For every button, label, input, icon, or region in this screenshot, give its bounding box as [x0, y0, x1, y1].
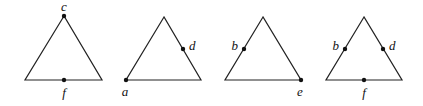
triangle-3: b e [225, 17, 303, 99]
label-b: b [232, 38, 239, 53]
point-f [62, 78, 66, 82]
label-a: a [122, 84, 129, 99]
label-e: e [297, 84, 303, 99]
label-d: d [189, 38, 196, 53]
label-f: f [362, 85, 368, 100]
triangle-1: c f [25, 0, 102, 100]
point-d [181, 47, 185, 51]
triangle-4: b d f [326, 17, 402, 100]
point-d [381, 47, 385, 51]
label-d: d [389, 38, 396, 53]
label-c: c [61, 0, 67, 14]
point-b [242, 47, 246, 51]
label-b: b [333, 38, 340, 53]
point-c [62, 14, 66, 18]
triangles-diagram: c f d a b e b d f [0, 0, 423, 106]
point-b [343, 47, 347, 51]
point-f [362, 78, 366, 82]
triangle-1-outline [25, 16, 102, 80]
point-e [299, 78, 303, 82]
label-f: f [62, 85, 68, 100]
point-a [124, 78, 128, 82]
triangle-2: d a [122, 17, 201, 99]
